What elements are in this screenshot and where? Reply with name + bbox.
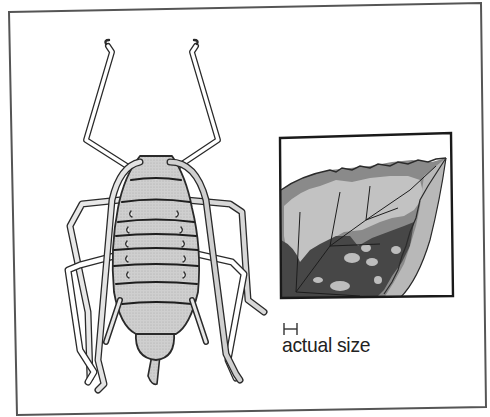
scale-caption: actual size xyxy=(282,334,370,355)
leaf-inset xyxy=(280,133,453,298)
figure xyxy=(0,0,490,417)
aphid-illustration xyxy=(68,40,264,390)
antenna-right xyxy=(176,40,218,168)
aphid-body xyxy=(106,156,206,384)
antenna-left xyxy=(86,40,130,168)
